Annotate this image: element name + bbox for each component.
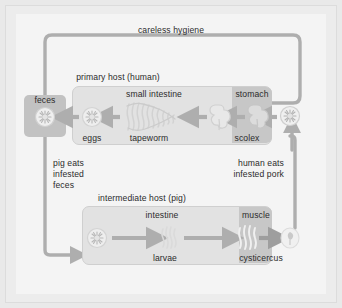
egg-burst-icon-pig <box>88 229 107 248</box>
cysticercus-bladder-icon <box>281 228 299 248</box>
egg-burst-icon-feces <box>36 108 55 127</box>
diagram-canvas: primary host (human) small intestine sto… <box>0 0 342 308</box>
organism-icon-layer <box>0 0 342 308</box>
egg-burst-icon-stomach <box>281 107 300 126</box>
figure-frame: primary host (human) small intestine sto… <box>0 0 342 308</box>
scolex-head-icon-intestine <box>210 105 230 130</box>
tapeworm-coil-icon <box>127 103 175 130</box>
larvae-squiggle-icon-muscle <box>239 226 256 249</box>
egg-burst-icon-intestine <box>83 108 102 127</box>
larvae-squiggle-icon <box>162 227 176 248</box>
scolex-head-icon-stomach <box>248 105 268 130</box>
